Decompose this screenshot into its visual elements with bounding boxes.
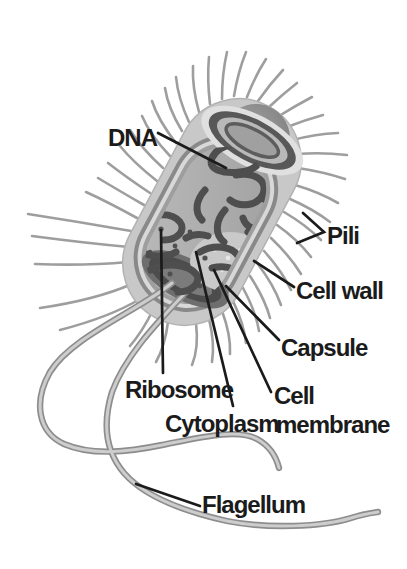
label-cell-membrane-line2: membrane (276, 411, 390, 438)
label-pili: Pili (327, 222, 359, 249)
label-capsule: Capsule (281, 334, 368, 361)
label-flagellum: Flagellum (202, 491, 305, 518)
label-dna: DNA (108, 124, 158, 151)
label-cell-wall: Cell wall (296, 277, 383, 304)
label-cytoplasm: Cytoplasm (165, 410, 279, 437)
label-ribosome: Ribosome (125, 376, 234, 403)
bacterium-diagram: DNA Pili Cell wall Capsule Cell membrane… (0, 0, 407, 569)
label-cell-membrane-line1: Cell (274, 382, 314, 409)
